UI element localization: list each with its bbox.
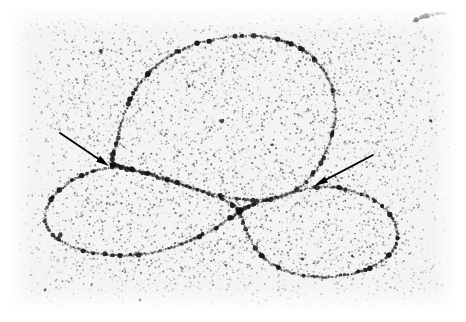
micrograph-figure: Electron micrograph of a looped DNA mole… — [0, 0, 466, 322]
micrograph-image — [0, 0, 466, 322]
